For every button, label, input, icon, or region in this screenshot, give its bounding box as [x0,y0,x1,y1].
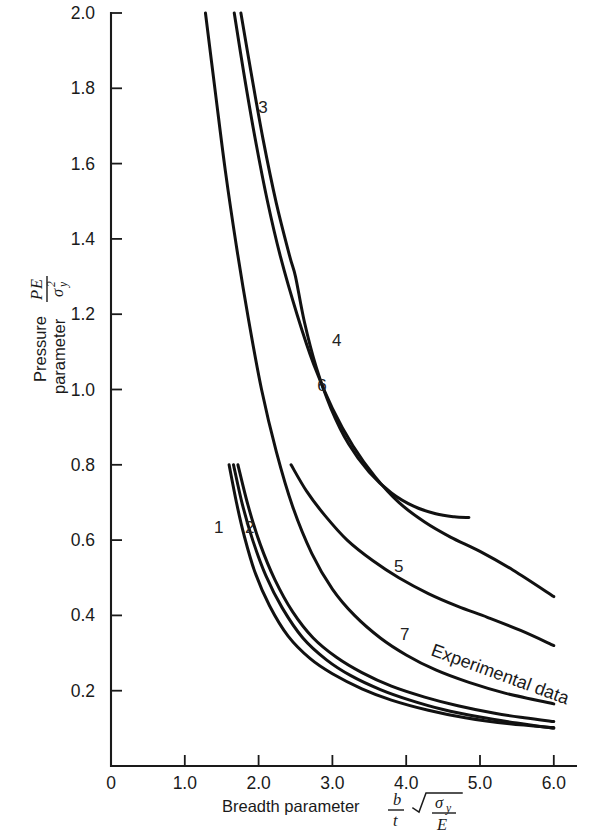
y-axis-title: Pressure parameter P E σ y 2 [27,276,70,394]
x-axis-frac-denominator: t [393,811,398,830]
y-tick-label: 0.4 [71,605,96,625]
y-axis-title-line2: parameter [50,318,68,394]
curve-label-6: 6 [317,376,326,395]
x-axis-title: Breadth parameter b t σ y E [222,790,462,834]
x-tick-label: 3.0 [320,773,345,793]
y-tick-label: 1.2 [71,304,95,324]
curve-label-2: 2 [245,518,254,537]
y-axis-title-line1: Pressure [31,316,49,382]
curve-label-7: 7 [400,625,409,644]
y-tick-label: 0.2 [71,681,95,701]
y-tick-label: 2.0 [71,3,96,23]
axis-lines [111,13,576,766]
y-tick-label: 0.8 [71,455,95,475]
curve-labels-group: 1234567 [214,98,409,644]
x-axis-sqrt-denominator: E [436,815,447,834]
y-axis-frac-den-subscript: y [57,281,70,288]
chart-figure: 0.20.40.60.81.01.21.41.61.82.001.02.03.0… [0,0,616,834]
curve-5 [291,465,554,646]
y-axis-fraction: P E σ y 2 [27,276,70,302]
y-axis-frac-den: σ [48,288,67,297]
x-tick-label: 1.0 [173,773,198,793]
curve-label-5: 5 [394,557,403,576]
y-tick-label: 1.0 [71,380,96,400]
y-axis-frac-num-e: E [27,279,46,290]
y-tick-label: 1.8 [71,78,95,98]
chart-plot-area: 0.20.40.60.81.01.21.41.61.82.001.02.03.0… [0,0,616,834]
curve-2 [234,465,554,729]
y-tick-label: 0.6 [71,530,95,550]
y-axis-frac-den-superscript: 2 [45,281,57,287]
x-axis-frac-numerator: b [393,790,401,809]
x-tick-label: 0 [106,773,116,793]
x-tick-label: 6.0 [542,773,567,793]
curves-group [205,13,553,728]
curve-1 [229,465,554,728]
curve-label-3: 3 [258,98,267,117]
x-axis-sqrt-numerator: σ [435,793,444,812]
y-tick-label: 1.4 [71,229,96,249]
curve-4 [234,13,554,597]
curve-label-4: 4 [332,331,341,350]
x-tick-label: 2.0 [246,773,271,793]
x-tick-label: 5.0 [468,773,493,793]
y-tick-label: 1.6 [71,154,95,174]
x-axis-title-text: Breadth parameter [222,797,360,815]
y-axis-frac-num-p: P [27,290,46,301]
curve-label-1: 1 [214,518,223,537]
